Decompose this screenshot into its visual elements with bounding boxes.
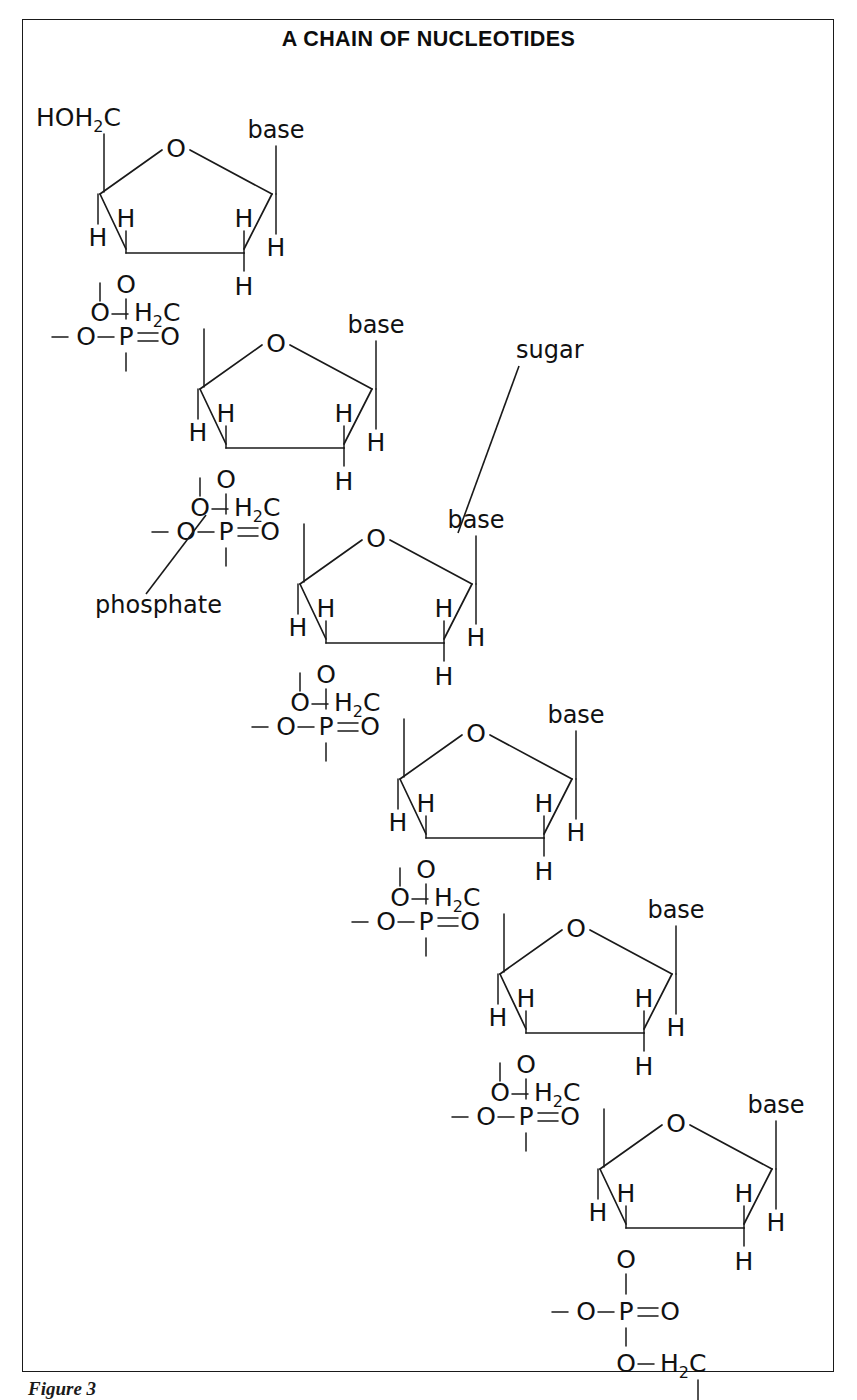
hydrogen-c3-upper: H bbox=[417, 789, 436, 818]
phosphorus-atom: P bbox=[418, 907, 433, 936]
nucleotide-unit: OH2CObaseHHHHHOOPO bbox=[190, 478, 504, 761]
hydrogen-c4: H bbox=[289, 613, 308, 642]
hydrogen-c4: H bbox=[89, 223, 108, 252]
phosphorus-atom: P bbox=[318, 712, 333, 741]
ring-oxygen-atom: O bbox=[566, 914, 586, 943]
hydrogen-c1: H bbox=[467, 623, 486, 652]
phosphate-oxygen-right: O bbox=[660, 1297, 680, 1326]
base-label: base bbox=[347, 311, 404, 339]
chain-units-group: HOH2CObaseHHHHHOOPOOH2CObaseHHHHHOOPOOH2… bbox=[36, 103, 805, 1400]
ring-oxygen-atom: O bbox=[266, 329, 286, 358]
base-label: base bbox=[447, 506, 504, 534]
linker-group-h2c: H2C bbox=[534, 1078, 580, 1111]
ring-bond-o-c1 bbox=[290, 345, 372, 389]
hydrogen-c2-upper: H bbox=[235, 204, 254, 233]
hydrogen-c4: H bbox=[189, 418, 208, 447]
three-prime-oxygen: O bbox=[316, 660, 336, 689]
linker-group-h2c: H2C bbox=[134, 298, 180, 331]
base-label: base bbox=[647, 896, 704, 924]
hydrogen-c2-upper: H bbox=[435, 594, 454, 623]
ring-bond-o-c1 bbox=[490, 735, 572, 779]
ring-bond-o-c1 bbox=[190, 150, 272, 194]
hydrogen-c3-upper: H bbox=[217, 399, 236, 428]
hydrogen-c2-upper: H bbox=[635, 984, 654, 1013]
three-prime-oxygen: O bbox=[516, 1050, 536, 1079]
base-label: base bbox=[747, 1091, 804, 1119]
hydrogen-c3-upper: H bbox=[117, 204, 136, 233]
hydrogen-c2-lower: H bbox=[235, 272, 254, 301]
ring-oxygen-atom: O bbox=[666, 1109, 686, 1138]
three-prime-oxygen: O bbox=[116, 270, 136, 299]
phosphorus-atom: P bbox=[218, 517, 233, 546]
annotation-label-sugar: sugar bbox=[516, 336, 584, 364]
ring-bond-o-c1 bbox=[690, 1125, 772, 1169]
hydrogen-c2-upper: H bbox=[735, 1179, 754, 1208]
three-prime-oxygen: O bbox=[616, 1245, 636, 1274]
hydrogen-c2-upper: H bbox=[535, 789, 554, 818]
hydrogen-c2-lower: H bbox=[735, 1247, 754, 1276]
ring-bond-c4-o bbox=[500, 930, 562, 974]
base-label: base bbox=[547, 701, 604, 729]
nucleotide-unit: OH2CObaseHHHHHOOPO bbox=[290, 673, 604, 956]
linker-oxygen-atom: O bbox=[190, 493, 210, 522]
phosphate-oxygen-left: O bbox=[576, 1297, 596, 1326]
terminal-group-h2c: H2C bbox=[660, 1349, 706, 1382]
ring-bond-c4-o bbox=[300, 540, 362, 584]
ring-bond-o-c1 bbox=[390, 540, 472, 584]
hydrogen-c3-upper: H bbox=[617, 1179, 636, 1208]
linker-oxygen-atom: O bbox=[490, 1078, 510, 1107]
figure-caption: Figure 3 bbox=[28, 1378, 96, 1400]
hydrogen-c4: H bbox=[389, 808, 408, 837]
ring-bond-c4-o bbox=[400, 735, 462, 779]
hydrogen-c2-upper: H bbox=[335, 399, 354, 428]
ring-oxygen-atom: O bbox=[166, 134, 186, 163]
phosphorus-atom: P bbox=[618, 1297, 633, 1326]
hydrogen-c1: H bbox=[667, 1013, 686, 1042]
terminal-oxygen: O bbox=[616, 1349, 636, 1378]
nucleotide-unit: OH2CObaseHHHHHOOPO bbox=[90, 283, 404, 566]
hydrogen-c1: H bbox=[267, 233, 286, 262]
hydrogen-c2-lower: H bbox=[535, 857, 554, 886]
hydrogen-c2-lower: H bbox=[635, 1052, 654, 1081]
linker-group-h2c: H2C bbox=[234, 493, 280, 526]
hydrogen-c1: H bbox=[567, 818, 586, 847]
ring-bond-c4-o bbox=[600, 1125, 662, 1169]
linker-group-h2c: H2C bbox=[334, 688, 380, 721]
nucleotide-unit: HOH2CObaseHHHHHOOPO bbox=[36, 103, 305, 371]
phosphorus-atom: P bbox=[518, 1102, 533, 1131]
hydrogen-c4: H bbox=[489, 1003, 508, 1032]
linker-oxygen-atom: O bbox=[290, 688, 310, 717]
hydrogen-c4: H bbox=[589, 1198, 608, 1227]
ring-bond-o-c1 bbox=[590, 930, 672, 974]
ring-bond-c4-o bbox=[100, 150, 162, 194]
hydrogen-c3-upper: H bbox=[317, 594, 336, 623]
ring-bond-c4-o bbox=[200, 345, 262, 389]
hydrogen-c1: H bbox=[767, 1208, 786, 1237]
hydrogen-c1: H bbox=[367, 428, 386, 457]
three-prime-oxygen: O bbox=[216, 465, 236, 494]
linker-oxygen-atom: O bbox=[390, 883, 410, 912]
hydrogen-c3-upper: H bbox=[517, 984, 536, 1013]
nucleotide-unit: OH2CObaseHHHHHOOPO bbox=[390, 868, 704, 1151]
linker-oxygen-atom: O bbox=[90, 298, 110, 327]
three-prime-oxygen: O bbox=[416, 855, 436, 884]
nucleotide-unit: OH2CObaseHHHHHOOPOOH2C bbox=[490, 1063, 804, 1400]
annotation-label-phosphate: phosphate bbox=[95, 591, 222, 619]
base-label: base bbox=[247, 116, 304, 144]
phosphorus-atom: P bbox=[118, 322, 133, 351]
ring-oxygen-atom: O bbox=[366, 524, 386, 553]
linker-group-h2c: H2C bbox=[434, 883, 480, 916]
ring-oxygen-atom: O bbox=[466, 719, 486, 748]
hydrogen-c2-lower: H bbox=[335, 467, 354, 496]
hydrogen-c2-lower: H bbox=[435, 662, 454, 691]
head-group-hoh2c: HOH2C bbox=[36, 103, 121, 136]
